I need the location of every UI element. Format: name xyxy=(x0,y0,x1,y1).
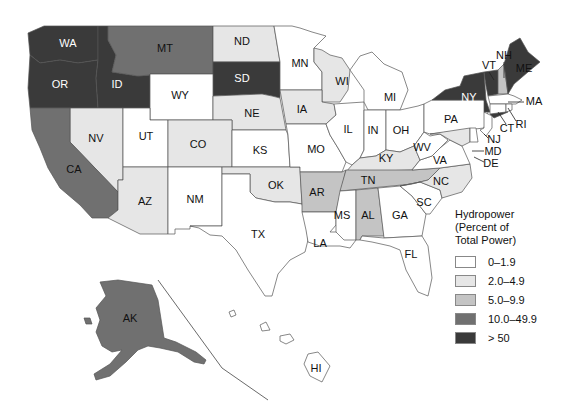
label-az: AZ xyxy=(138,195,152,207)
label-ar: AR xyxy=(309,186,324,198)
label-fl: FL xyxy=(405,248,418,260)
label-ak: AK xyxy=(123,312,138,324)
state-vt[interactable] xyxy=(484,70,498,96)
label-md: MD xyxy=(484,145,501,157)
label-hi: HI xyxy=(311,362,322,374)
label-ri: RI xyxy=(516,118,527,130)
label-sc: SC xyxy=(416,196,431,208)
label-mo: MO xyxy=(307,143,325,155)
legend: Hydropower (Percent of Total Power) 0–1.… xyxy=(455,208,565,347)
label-ut: UT xyxy=(139,130,154,142)
label-ms: MS xyxy=(334,209,351,221)
label-tx: TX xyxy=(251,228,266,240)
label-wv: WV xyxy=(413,141,431,153)
state-ma[interactable] xyxy=(488,94,522,104)
label-ok: OK xyxy=(268,179,285,191)
state-mi[interactable] xyxy=(350,52,408,110)
legend-item: 2.0–4.9 xyxy=(455,271,565,290)
legend-swatch xyxy=(455,275,476,287)
label-ct: CT xyxy=(500,122,515,134)
label-in: IN xyxy=(368,124,379,136)
inset-divider-2 xyxy=(222,368,268,400)
state-de[interactable] xyxy=(470,128,478,142)
label-nc: NC xyxy=(433,175,449,187)
label-ca: CA xyxy=(66,163,82,175)
state-hi-island-3 xyxy=(280,334,294,344)
legend-swatch xyxy=(455,332,476,344)
state-fl[interactable] xyxy=(360,236,432,296)
label-wi: WI xyxy=(335,75,348,87)
legend-item: 0–1.9 xyxy=(455,252,565,271)
label-me: ME xyxy=(516,62,533,74)
state-ak[interactable] xyxy=(94,280,206,380)
label-ny: NY xyxy=(461,91,477,103)
state-hi-island-2 xyxy=(260,322,270,331)
state-hi-island-1 xyxy=(229,310,236,317)
label-wa: WA xyxy=(59,37,77,49)
label-sd: SD xyxy=(234,72,249,84)
legend-item: 5.0–9.9 xyxy=(455,290,565,309)
label-nv: NV xyxy=(88,132,104,144)
label-ks: KS xyxy=(253,144,268,156)
label-la: LA xyxy=(313,237,327,249)
label-va: VA xyxy=(433,154,448,166)
label-mt: MT xyxy=(157,42,173,54)
label-nj: NJ xyxy=(487,133,500,145)
legend-swatch xyxy=(455,256,476,268)
label-ga: GA xyxy=(392,209,409,221)
label-ky: KY xyxy=(379,152,394,164)
label-or: OR xyxy=(52,78,69,90)
label-ma: MA xyxy=(526,95,543,107)
label-il: IL xyxy=(343,123,352,135)
label-ia: IA xyxy=(297,103,308,115)
label-pa: PA xyxy=(444,113,459,125)
state-ri[interactable] xyxy=(506,104,512,112)
label-ne: NE xyxy=(244,107,259,119)
label-tn: TN xyxy=(361,174,376,186)
legend-title: Hydropower (Percent of Total Power) xyxy=(455,208,565,247)
label-al: AL xyxy=(361,209,374,221)
legend-item: > 50 xyxy=(455,328,565,347)
label-nd: ND xyxy=(234,35,250,47)
label-oh: OH xyxy=(393,124,410,136)
label-co: CO xyxy=(190,138,207,150)
legend-swatch xyxy=(455,294,476,306)
label-nm: NM xyxy=(186,193,203,205)
state-ak-island xyxy=(84,318,92,324)
label-nh: NH xyxy=(496,49,512,61)
label-de: DE xyxy=(483,157,498,169)
label-vt: VT xyxy=(482,59,496,71)
label-id: ID xyxy=(112,78,123,90)
label-mi: MI xyxy=(384,91,396,103)
legend-item: 10.0–49.9 xyxy=(455,309,565,328)
label-mn: MN xyxy=(291,57,308,69)
legend-swatch xyxy=(455,313,476,325)
label-wy: WY xyxy=(171,89,189,101)
